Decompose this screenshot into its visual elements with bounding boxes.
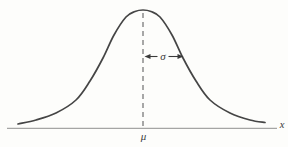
mu-label: μ (140, 130, 147, 142)
sigma-annotation: σ (145, 50, 184, 62)
normal-distribution-figure: σ μ x (0, 0, 288, 147)
bell-curve (18, 10, 265, 124)
diagram-canvas: σ μ x (0, 0, 288, 147)
sigma-arrow-left-head-icon (145, 54, 151, 59)
x-axis-label: x (279, 119, 285, 130)
sigma-label: σ (160, 50, 166, 62)
